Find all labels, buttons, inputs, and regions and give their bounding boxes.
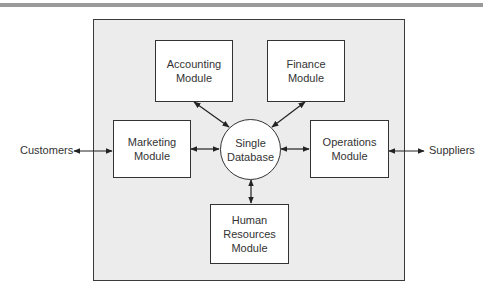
operations-label-1: Operations: [323, 135, 377, 149]
operations-label-2: Module: [331, 149, 367, 163]
marketing-label-1: Marketing: [128, 135, 176, 149]
hr-label-3: Module: [231, 241, 267, 255]
customers-label: Customers: [20, 144, 73, 156]
single-database-circle: Single Database: [220, 119, 281, 180]
accounting-label-2: Module: [176, 71, 212, 85]
human-resources-module-box: Human Resources Module: [210, 204, 289, 264]
finance-label-2: Module: [288, 71, 324, 85]
finance-label-1: Finance: [286, 57, 325, 71]
hr-label-2: Resources: [223, 227, 276, 241]
finance-module-box: Finance Module: [267, 40, 345, 102]
operations-module-box: Operations Module: [310, 120, 389, 178]
hr-label-1: Human: [232, 213, 267, 227]
accounting-label-1: Accounting: [167, 57, 221, 71]
database-label-2: Database: [227, 150, 274, 164]
marketing-module-box: Marketing Module: [113, 120, 191, 178]
accounting-module-box: Accounting Module: [155, 40, 233, 102]
database-label-1: Single: [235, 136, 266, 150]
marketing-label-2: Module: [134, 149, 170, 163]
suppliers-label: Suppliers: [429, 144, 475, 156]
